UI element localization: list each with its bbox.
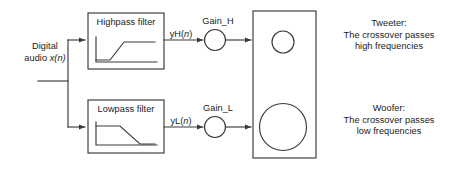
woofer-desc-line1: The crossover passes <box>344 115 435 125</box>
yl-signal-label: yL(n) <box>163 116 199 128</box>
yl-suffix: ) <box>188 116 191 126</box>
woofer-desc-line2: low frequencies <box>357 126 422 136</box>
yh-prefix: yH( <box>170 29 184 39</box>
input-label-variable: x(n) <box>50 53 66 63</box>
gain-l-node <box>205 117 226 138</box>
input-label-line2-prefix: audio <box>24 53 49 63</box>
lowpass-filter-label: Lowpass filter <box>92 104 160 116</box>
woofer-driver-icon <box>260 104 307 151</box>
tweeter-description: Tweeter:The crossover passeshigh frequen… <box>330 18 448 53</box>
gain-l-label: Gain_L <box>198 103 238 115</box>
input-signal-label: Digitalaudio x(n) <box>8 41 82 64</box>
yh-signal-label: yH(n) <box>163 29 199 41</box>
crossover-block-diagram: Digitalaudio x(n) Highpass filter Lowpas… <box>0 0 450 171</box>
input-label-line1: Digital <box>32 41 58 51</box>
woofer-description: Woofer:The crossover passeslow frequenci… <box>330 103 448 138</box>
highpass-filter-label: Highpass filter <box>92 17 160 29</box>
gain-h-label: Gain_H <box>198 16 238 28</box>
yl-prefix: yL( <box>170 116 183 126</box>
tweeter-desc-line1: The crossover passes <box>344 30 435 40</box>
yh-suffix: ) <box>189 29 192 39</box>
woofer-title: Woofer: <box>373 103 405 113</box>
tweeter-title: Tweeter: <box>371 18 407 28</box>
tweeter-desc-line2: high frequencies <box>355 41 423 51</box>
gain-h-node <box>205 30 226 51</box>
tweeter-driver-icon <box>272 31 294 53</box>
